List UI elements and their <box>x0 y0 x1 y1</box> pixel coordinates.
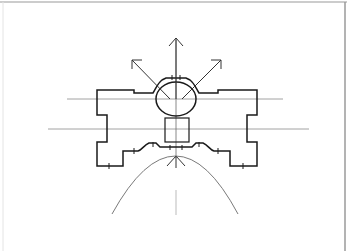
building-outline <box>97 78 257 166</box>
diagram-canvas <box>0 0 347 251</box>
apex-fan-icon <box>167 156 185 168</box>
plan-drawing <box>0 0 347 251</box>
parabolic-curve <box>112 156 238 214</box>
arrow-north-icon <box>169 38 183 99</box>
square-room <box>165 118 189 142</box>
